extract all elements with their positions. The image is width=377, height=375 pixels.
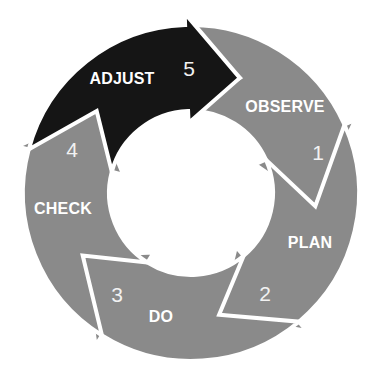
step-2-label: PLAN (288, 234, 332, 252)
pdca-cycle-diagram: OBSERVE 1 PLAN 2 DO 3 CHECK 4 ADJUST 5 (0, 0, 377, 375)
step-1-number: 1 (312, 141, 324, 165)
step-4-label: CHECK (34, 200, 92, 218)
step-5-label: ADJUST (89, 70, 154, 88)
step-5-number: 5 (183, 57, 195, 81)
step-4-number: 4 (66, 138, 78, 162)
step-2-number: 2 (259, 282, 271, 306)
step-3-number: 3 (111, 283, 123, 307)
step-1-label: OBSERVE (245, 98, 324, 116)
step-3-label: DO (149, 308, 173, 326)
